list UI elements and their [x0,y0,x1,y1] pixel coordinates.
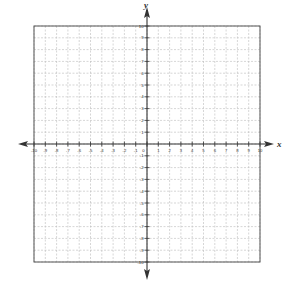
x-tick-label: 9 [248,148,251,153]
x-tick-label: -2 [123,148,127,153]
x-tick-label: 1 [157,148,160,153]
y-tick-label: -10 [137,260,144,265]
x-tick-label: -1 [134,148,138,153]
x-tick-label: -5 [89,148,93,153]
origin-label: 0 [142,148,145,153]
x-tick-label: 7 [225,148,228,153]
coordinate-plane: -10-9-8-7-6-5-4-3-2-1123456789100 109876… [0,0,288,299]
x-tick-label: -7 [66,148,70,153]
x-tick-label: 4 [191,148,194,153]
x-tick-label: 5 [202,148,205,153]
x-tick-label: -9 [43,148,47,153]
x-tick-label: -4 [100,148,104,153]
x-tick-label: 3 [180,148,183,153]
y-axis-label: y [143,0,149,10]
x-tick-label: 8 [236,148,239,153]
y-tick-label: 10 [139,24,144,29]
x-tick-label: -8 [55,148,59,153]
x-tick-label: 2 [168,148,171,153]
x-tick-label: -3 [111,148,115,153]
x-tick-label: 6 [214,148,217,153]
x-tick-label: -6 [77,148,81,153]
x-tick-label: 10 [258,148,263,153]
x-tick-label: -10 [31,148,38,153]
x-axis-label: x [276,139,282,149]
